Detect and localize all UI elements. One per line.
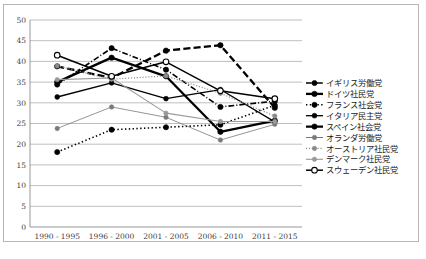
legend-label: デンマーク社民党 <box>326 154 390 164</box>
y-axis-tick-label: 30 <box>16 99 26 108</box>
legend-item[interactable]: イギリス労働党 <box>306 78 382 88</box>
legend-item[interactable]: オランダ労働党 <box>306 133 382 143</box>
data-point[interactable] <box>164 96 169 101</box>
data-point[interactable] <box>272 96 278 102</box>
legend-label: イタリア民主党 <box>326 111 382 121</box>
data-point[interactable] <box>218 88 224 94</box>
data-point[interactable] <box>218 119 222 123</box>
y-axis-tick-label: 35 <box>16 78 26 87</box>
data-point[interactable] <box>163 48 168 53</box>
y-axis-tick-label: 20 <box>16 140 26 149</box>
data-point[interactable] <box>163 125 168 130</box>
x-axis-tick-label: 2011 - 2015 <box>252 232 298 241</box>
legend-marker <box>312 124 317 129</box>
data-point[interactable] <box>109 46 114 51</box>
y-axis-tick-label: 40 <box>16 57 26 66</box>
data-point[interactable] <box>109 55 114 60</box>
data-point[interactable] <box>218 104 223 109</box>
legend-item[interactable]: オーストリア社民党 <box>306 144 398 154</box>
legend-label: オーストリア社民党 <box>326 144 398 154</box>
data-point[interactable] <box>55 149 60 154</box>
data-point[interactable] <box>109 74 115 80</box>
y-axis-tick-label: 25 <box>16 119 26 128</box>
legend-marker <box>312 135 316 139</box>
legend-item[interactable]: フランス社会党 <box>306 100 382 110</box>
legend-label: ドイツ社民党 <box>326 89 374 99</box>
data-point[interactable] <box>109 105 113 109</box>
data-point[interactable] <box>55 64 59 68</box>
y-axis-tick-label: 15 <box>16 161 26 170</box>
data-point[interactable] <box>272 105 277 110</box>
legend-label: オランダ労働党 <box>326 133 382 143</box>
y-axis-tick-label: 0 <box>21 223 26 232</box>
legend-marker <box>312 102 317 107</box>
y-axis-tick-label: 10 <box>16 181 26 190</box>
data-point[interactable] <box>55 95 60 100</box>
data-point[interactable] <box>273 114 277 118</box>
legend-item[interactable]: デンマーク社民党 <box>306 154 390 164</box>
data-point[interactable] <box>218 129 223 134</box>
data-point[interactable] <box>218 138 222 142</box>
y-axis-tick-label: 45 <box>16 36 26 45</box>
legend-item[interactable]: スウェーデン社民党 <box>306 165 398 175</box>
legend-item[interactable]: イタリア民主党 <box>306 111 382 121</box>
legend-marker <box>312 113 317 118</box>
legend-marker <box>312 167 318 173</box>
x-axis-tick-label: 1996 - 2000 <box>89 232 135 241</box>
data-point[interactable] <box>164 74 168 78</box>
legend-marker <box>312 157 316 161</box>
legend-label: フランス社会党 <box>326 100 382 110</box>
data-point[interactable] <box>218 43 223 48</box>
legend-item[interactable]: ドイツ社民党 <box>306 89 374 99</box>
y-axis-tick-labels: 05101520253035404550 <box>16 16 26 232</box>
x-axis-tick-labels: 1990 - 19951996 - 20002001 - 20052006 - … <box>34 232 297 241</box>
x-axis-tick-label: 2001 - 2005 <box>143 232 189 241</box>
chart-legend[interactable]: イギリス労働党ドイツ社民党フランス社会党イタリア民主党スペイン社会党オランダ労働… <box>306 78 398 175</box>
data-point[interactable] <box>273 119 277 123</box>
legend-marker <box>312 146 316 150</box>
x-axis-tick-label: 1990 - 1995 <box>34 232 80 241</box>
chart-screenshot: 05101520253035404550 1990 - 19951996 - 2… <box>0 0 426 259</box>
data-point[interactable] <box>163 67 168 72</box>
y-axis-tick-label: 5 <box>21 202 26 211</box>
data-point[interactable] <box>109 127 114 132</box>
legend-label: スペイン社会党 <box>326 122 381 132</box>
data-point[interactable] <box>55 77 59 81</box>
series-3[interactable] <box>55 103 278 155</box>
legend-label: スウェーデン社民党 <box>326 165 398 175</box>
data-series-layer[interactable] <box>54 43 277 155</box>
data-point[interactable] <box>55 126 59 130</box>
y-axis-tick-label: 50 <box>16 16 26 25</box>
data-point[interactable] <box>164 111 168 115</box>
data-point[interactable] <box>163 59 169 65</box>
line-chart-plot[interactable]: 05101520253035404550 1990 - 19951996 - 2… <box>0 0 426 259</box>
legend-marker <box>312 91 317 96</box>
x-axis-tick-label: 2006 - 2010 <box>198 232 244 241</box>
legend-item[interactable]: スペイン社会党 <box>306 122 381 132</box>
data-point[interactable] <box>164 115 168 119</box>
legend-label: イギリス労働党 <box>326 78 382 88</box>
legend-marker <box>312 80 317 85</box>
data-point[interactable] <box>54 52 60 58</box>
